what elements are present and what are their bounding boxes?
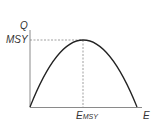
- emsy-label-main: E: [76, 110, 83, 121]
- emsy-label: EMSY: [76, 111, 98, 122]
- msy-label: MSY: [6, 35, 28, 45]
- y-axis-label: Q: [20, 21, 28, 31]
- chart-canvas: [0, 0, 152, 125]
- emsy-label-sub: MSY: [83, 113, 98, 120]
- x-axis-label: E: [143, 111, 150, 121]
- yield-curve: [30, 40, 137, 107]
